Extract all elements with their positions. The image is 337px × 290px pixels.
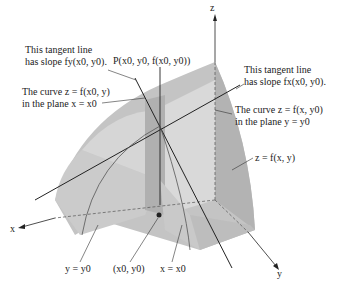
x-axis-label: x	[10, 223, 15, 234]
base-point-dot	[157, 213, 162, 218]
z-axis-label: z	[210, 2, 214, 13]
x-axis	[22, 218, 55, 227]
curve-x0-label-1: The curve z = f(x0, y)	[22, 86, 110, 97]
tangent-fy-label-2: has slope fy(x0, y0).	[25, 56, 107, 67]
z-axis-arrow	[213, 14, 217, 21]
surface-label: z = f(x, y)	[255, 152, 295, 163]
curve-y0-label-1: The curve z = f(x, y0)	[235, 104, 323, 115]
plane-x-label: x = x0	[160, 263, 186, 274]
tangent-fx-label-2: has slope fx(x0, y0).	[244, 76, 326, 87]
base-point-label: (x0, y0)	[113, 263, 145, 274]
x-axis-arrow	[18, 224, 25, 229]
point-P-label: P(x0, y0, f(x0, y0))	[113, 55, 190, 66]
y-axis-label: y	[277, 268, 282, 279]
tangent-fx-label-1: This tangent line	[244, 64, 311, 75]
curve-y0-label-2: in the plane y = y0	[235, 116, 310, 127]
plane-y-label: y = y0	[65, 263, 91, 274]
curve-x0-label-2: in the plane x = x0	[22, 98, 97, 109]
leader-tangent-fy	[108, 70, 136, 80]
tangent-fy-label-1: This tangent line	[25, 44, 92, 55]
y-axis	[248, 232, 276, 266]
